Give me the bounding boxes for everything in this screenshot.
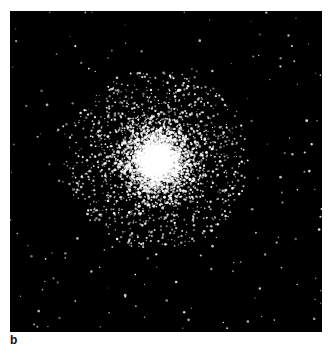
star-cluster-image xyxy=(10,11,322,332)
panel-label: b xyxy=(10,333,17,347)
star-field-canvas xyxy=(10,11,322,332)
